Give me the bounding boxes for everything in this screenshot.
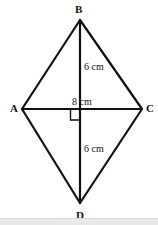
vertex-label-c: C bbox=[146, 103, 154, 114]
vertex-label-b: B bbox=[75, 4, 82, 15]
geometry-figure: B A C D 6 cm 8 cm 6 cm bbox=[0, 0, 158, 225]
kite-diagram-svg bbox=[0, 0, 158, 225]
edge-c-d bbox=[80, 109, 142, 203]
measurement-label-horizontal: 8 cm bbox=[72, 97, 92, 107]
vertex-label-a: A bbox=[10, 103, 18, 114]
edge-d-a bbox=[22, 109, 80, 203]
bottom-edge-strip bbox=[0, 218, 158, 225]
measurement-label-bottom: 6 cm bbox=[84, 144, 104, 154]
right-angle-icon bbox=[71, 110, 81, 121]
measurement-label-top: 6 cm bbox=[84, 62, 104, 72]
